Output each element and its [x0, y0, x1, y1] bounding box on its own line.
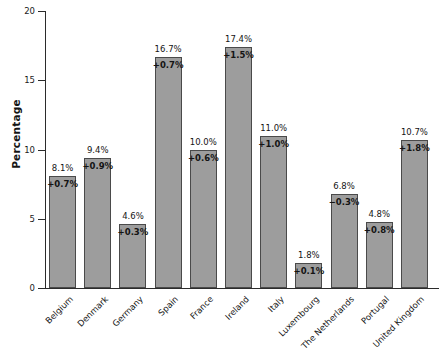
- bar-value-label: 16.7%: [155, 44, 182, 54]
- bars-layer: 8.1%+0.7%9.4%+0.9%4.6%+0.3%16.7%+0.7%10.…: [45, 11, 432, 288]
- y-axis-tick-label: 5: [30, 214, 35, 224]
- bar-delta-label: +0.9%: [82, 161, 113, 171]
- bar-delta-label: +0.7%: [153, 60, 184, 70]
- bar-chart: Percentage 05101520 8.1%+0.7%9.4%+0.9%4.…: [0, 0, 446, 359]
- x-axis-tick-label: Belgium: [0, 294, 75, 359]
- bar: [155, 57, 182, 288]
- bar: [84, 158, 111, 288]
- bar-delta-label: +0.8%: [364, 225, 395, 235]
- bar: [401, 140, 428, 288]
- bar-value-label: 4.6%: [122, 211, 144, 221]
- bar-delta-label: +0.6%: [188, 153, 219, 163]
- bar: [260, 136, 287, 288]
- bar-value-label: 8.1%: [52, 163, 74, 173]
- bar-value-label: 10.0%: [190, 137, 217, 147]
- bar-delta-label: +0.3%: [118, 227, 149, 237]
- bar-value-label: 6.8%: [333, 181, 355, 191]
- bar-value-label: 10.7%: [401, 127, 428, 137]
- bar: [225, 47, 252, 288]
- bar-delta-label: +0.1%: [294, 266, 325, 276]
- y-axis-tick-label: 10: [24, 145, 35, 155]
- bar-delta-label: +1.0%: [258, 139, 289, 149]
- bar-delta-label: −0.3%: [329, 197, 360, 207]
- bar-value-label: 4.8%: [368, 209, 390, 219]
- y-axis-tick-label: 0: [30, 283, 35, 293]
- bar-value-label: 11.0%: [260, 123, 287, 133]
- bar: [331, 194, 358, 288]
- bar: [190, 150, 217, 289]
- bar-delta-label: +1.5%: [223, 50, 254, 60]
- y-axis-tick-label: 15: [24, 75, 35, 85]
- bar-value-label: 1.8%: [298, 250, 320, 260]
- bar-delta-label: +1.8%: [399, 143, 430, 153]
- y-axis-tick-label: 20: [24, 6, 35, 16]
- bar-value-label: 17.4%: [225, 34, 252, 44]
- bar-delta-label: +0.7%: [47, 179, 78, 189]
- bar: [49, 176, 76, 288]
- x-axis-labels: BelgiumDenmarkGermanySpainFranceIrelandI…: [45, 289, 432, 359]
- bar-value-label: 9.4%: [87, 145, 109, 155]
- y-axis-title: Percentage: [10, 74, 22, 194]
